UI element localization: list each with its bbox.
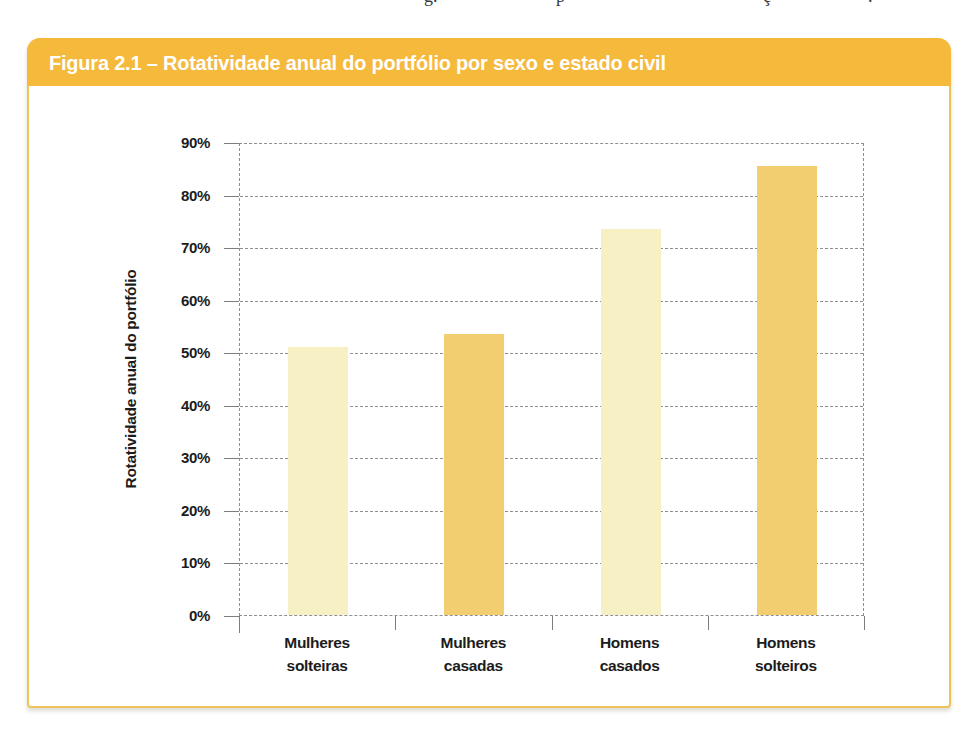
text-fragment: ç [763, 0, 771, 7]
figure-header-bar: Figura 2.1 – Rotatividade anual do portf… [27, 38, 951, 86]
x-label-homens-casados: Homens casados [555, 631, 705, 677]
x-tick-mark-2 [552, 616, 553, 630]
y-tick-mark-50pct [224, 353, 239, 354]
x-label-homens-solteiros: Homens solteiros [711, 631, 861, 677]
text-fragment: g. [424, 0, 438, 7]
y-tick-mark-30pct [224, 458, 239, 459]
y-tick-label-60pct: 60% [158, 291, 210, 311]
y-tick-label-80pct: 80% [158, 186, 210, 206]
bar-mulheres-solteiras [288, 347, 348, 615]
text-fragment: p [556, 0, 565, 7]
y-tick-label-50pct: 50% [158, 343, 210, 363]
x-tick-mark-4 [864, 616, 865, 630]
y-tick-label-0pct: 0% [158, 606, 210, 626]
x-label-mulheres-casadas: Mulheres casadas [398, 631, 548, 677]
y-tick-label-20pct: 20% [158, 501, 210, 521]
text-fragment: . [868, 0, 873, 7]
bar-homens-solteiros [757, 166, 817, 615]
y-tick-mark-90pct [224, 143, 239, 144]
bar-mulheres-casadas [444, 334, 504, 615]
y-axis-title: Rotatividade anual do portfólio [122, 229, 144, 529]
y-tick-mark-60pct [224, 301, 239, 302]
figure-title: Figura 2.1 – Rotatividade anual do portf… [49, 38, 666, 86]
y-tick-label-90pct: 90% [158, 133, 210, 153]
y-tick-label-30pct: 30% [158, 448, 210, 468]
cropped-text-fragments: g.pç. [0, 0, 970, 11]
x-tick-mark-1 [395, 616, 396, 630]
y-tick-mark-10pct [224, 563, 239, 564]
y-tick-label-10pct: 10% [158, 553, 210, 573]
bar-chart-plot-area [239, 143, 864, 616]
y-tick-mark-70pct [224, 248, 239, 249]
y-tick-mark-40pct [224, 406, 239, 407]
y-tick-mark-20pct [224, 511, 239, 512]
x-label-mulheres-solteiras: Mulheres solteiras [242, 631, 392, 677]
x-tick-mark-3 [708, 616, 709, 630]
figure-card: Figura 2.1 – Rotatividade anual do portf… [27, 38, 951, 708]
y-tick-mark-0pct [224, 616, 239, 617]
x-tick-mark-0 [239, 616, 240, 633]
bar-homens-casados [601, 229, 661, 615]
y-tick-mark-80pct [224, 196, 239, 197]
y-tick-label-40pct: 40% [158, 396, 210, 416]
y-tick-label-70pct: 70% [158, 238, 210, 258]
